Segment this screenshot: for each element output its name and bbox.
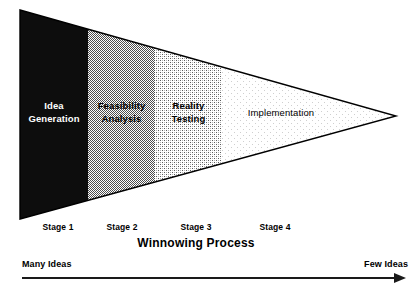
diagram-title: Winnowing Process — [0, 236, 392, 250]
stage-tick-3: Stage 3 — [166, 222, 226, 232]
band-fill-stage-4 — [222, 9, 398, 221]
stage-tick-1: Stage 1 — [28, 222, 88, 232]
funnel-bands — [19, 9, 398, 221]
axis-label-left: Many Ideas — [22, 259, 72, 269]
band-fill-stage-1 — [19, 9, 89, 221]
stage-tick-4: Stage 4 — [245, 222, 305, 232]
direction-arrow — [22, 273, 406, 283]
winnowing-process-diagram: Idea Generation Feasibility Analysis Rea… — [0, 0, 419, 294]
band-fill-stage-2 — [88, 9, 156, 221]
band-fill-stage-3 — [155, 9, 223, 221]
arrow-head-icon — [394, 273, 406, 283]
axis-label-right: Few Ideas — [364, 259, 408, 269]
stage-tick-2: Stage 2 — [92, 222, 152, 232]
